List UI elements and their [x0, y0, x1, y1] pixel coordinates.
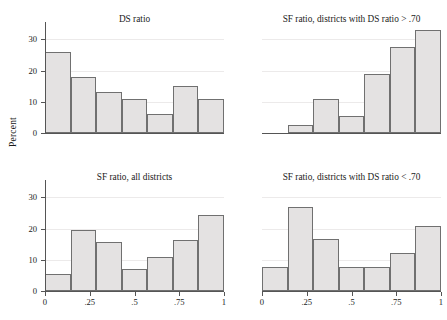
x-axis-tick-label: .25: [295, 298, 319, 307]
histogram-bar: [415, 30, 441, 133]
y-axis-tick: [41, 197, 45, 198]
histogram-bar: [415, 226, 441, 291]
histogram-bar: [198, 215, 224, 291]
x-axis-tick-label: .25: [78, 298, 102, 307]
gridline: [45, 71, 224, 72]
plot-area: 0102030: [45, 27, 224, 133]
histogram-bar: [339, 116, 365, 133]
panel-bottom-right: SF ratio, districts with DS ratio < .700…: [262, 172, 441, 304]
y-axis-tick-label: 30: [19, 193, 37, 201]
plot-area: 0.25.5.751: [262, 185, 441, 291]
x-axis-line: [45, 133, 224, 134]
histogram-bar: [122, 269, 148, 291]
histogram-bar: [288, 207, 314, 291]
panel-title: DS ratio: [45, 14, 224, 25]
plot-canvas: 0.25.5.751: [262, 185, 441, 291]
histogram-bar: [122, 99, 148, 133]
histogram-bar: [45, 52, 71, 133]
histogram-bar: [71, 230, 97, 291]
histogram-bar: [288, 125, 314, 133]
x-axis-tick-label: 0: [250, 298, 274, 307]
y-axis-tick-label: 20: [19, 67, 37, 75]
gridline: [45, 39, 224, 40]
gridline: [262, 39, 441, 40]
histogram-bar: [198, 99, 224, 133]
histogram-bar: [147, 114, 173, 133]
y-axis-tick: [41, 102, 45, 103]
y-axis-tick: [41, 260, 45, 261]
x-axis-tick: [45, 292, 46, 296]
x-axis-tick-label: 0: [33, 298, 57, 307]
x-axis-tick: [224, 292, 225, 296]
histogram-bar: [390, 253, 416, 291]
y-axis-tick: [41, 39, 45, 40]
y-axis-tick: [41, 229, 45, 230]
gridline: [262, 197, 441, 198]
y-axis-tick-label: 0: [19, 129, 37, 137]
panel-title: SF ratio, districts with DS ratio > .70: [262, 14, 441, 25]
y-axis-label: Percent: [8, 97, 18, 167]
y-axis-tick-label: 30: [19, 35, 37, 43]
x-axis-tick: [441, 292, 442, 296]
y-axis-tick-label: 10: [19, 256, 37, 264]
x-axis-tick: [352, 292, 353, 296]
panel-title: SF ratio, all districts: [45, 172, 224, 183]
y-axis-tick-label: 20: [19, 225, 37, 233]
x-axis-tick-label: .5: [340, 298, 364, 307]
x-axis-tick-label: .75: [384, 298, 408, 307]
plot-canvas: [262, 27, 441, 133]
histogram-bar: [364, 74, 390, 133]
plot-canvas: 01020300.25.5.751: [45, 185, 224, 291]
x-axis-tick: [90, 292, 91, 296]
histogram-bar: [173, 86, 199, 133]
histogram-bar: [147, 257, 173, 291]
y-axis-line: [45, 180, 46, 291]
x-axis-tick-label: 1: [429, 298, 447, 307]
x-axis-tick-label: .5: [123, 298, 147, 307]
y-axis-tick-label: 10: [19, 98, 37, 106]
histogram-bar: [71, 77, 97, 133]
x-axis-tick: [262, 292, 263, 296]
x-axis-tick: [396, 292, 397, 296]
panel-top-right: SF ratio, districts with DS ratio > .70: [262, 14, 441, 146]
y-axis-line: [45, 22, 46, 133]
histogram-bar: [339, 267, 365, 291]
x-axis-tick: [179, 292, 180, 296]
plot-canvas: 0102030: [45, 27, 224, 133]
panel-top-left: DS ratio0102030: [45, 14, 224, 146]
y-axis-tick-label: 0: [19, 287, 37, 295]
histogram-bar: [313, 239, 339, 291]
gridline: [45, 197, 224, 198]
histogram-bar: [96, 242, 122, 291]
panel-title: SF ratio, districts with DS ratio < .70: [262, 172, 441, 183]
x-axis-tick: [307, 292, 308, 296]
histogram-bar: [96, 92, 122, 133]
x-axis-tick-label: .75: [167, 298, 191, 307]
x-axis-tick-label: 1: [212, 298, 236, 307]
x-axis-line: [262, 133, 441, 134]
histogram-bar: [313, 99, 339, 133]
panel-bottom-left: SF ratio, all districts01020300.25.5.751: [45, 172, 224, 304]
plot-area: 01020300.25.5.751: [45, 185, 224, 291]
histogram-bar: [364, 267, 390, 291]
y-axis-tick: [41, 71, 45, 72]
plot-area: [262, 27, 441, 133]
histogram-bar: [390, 47, 416, 133]
histogram-bar: [173, 240, 199, 291]
histogram-bar: [45, 274, 71, 291]
histogram-bar: [262, 267, 288, 291]
x-axis-tick: [135, 292, 136, 296]
